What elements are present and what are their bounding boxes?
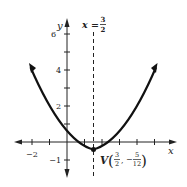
y-tick-label-4: 4 [56,66,61,75]
y-axis-down-arrow-icon [65,169,70,178]
y-tick-label-2: 2 [56,102,61,111]
x-axis-right-arrow-icon [169,140,177,145]
svg-text:): ) [141,152,147,170]
x-axis-label: x [168,145,174,156]
x-axis [14,139,177,145]
x-axis-left-arrow-icon [14,140,22,145]
axis-of-symmetry-label: x = 3 2 [81,15,106,34]
svg-text:,: , [121,156,124,165]
svg-text:x =: x = [81,19,99,30]
svg-text:2: 2 [101,25,106,34]
y-tick-label-neg1: −1 [49,156,61,165]
svg-text:12: 12 [133,160,141,168]
svg-text:3: 3 [101,15,106,24]
svg-text:5: 5 [135,151,139,159]
curve-left-arrow-icon [29,63,36,73]
y-tick-label-6: 6 [51,30,56,39]
svg-text:3: 3 [115,151,119,159]
y-axis-up-arrow-icon [65,18,70,27]
vertex-point [91,147,96,152]
svg-text:(: ( [108,152,114,170]
svg-text:2: 2 [115,160,119,168]
vertex-label: V ( 3 2 , − 5 12 ) [100,151,147,170]
y-axis-label: y [56,20,63,31]
svg-text:−: − [126,155,133,164]
parabola-graph: y x 6 4 2 −1 −2 x = 3 2 V ( 3 2 , − 5 12… [0,0,187,187]
y-axis [64,18,70,178]
x-tick-label-neg2: −2 [26,150,38,159]
